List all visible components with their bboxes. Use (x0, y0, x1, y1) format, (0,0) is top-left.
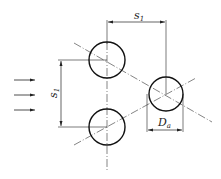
diagonal-center-line-down (74, 43, 212, 122)
dimension-lines (61, 22, 182, 130)
tube-bank-diagram: s1 s1 Da (0, 0, 221, 179)
diagonal-center-line-up (74, 78, 196, 145)
flow-arrows (14, 80, 35, 110)
horizontal-pitch-label: s1 (134, 9, 144, 23)
vertical-pitch-label: s1 (47, 88, 61, 98)
center-lines (74, 42, 212, 172)
diameter-label: Da (157, 116, 171, 130)
